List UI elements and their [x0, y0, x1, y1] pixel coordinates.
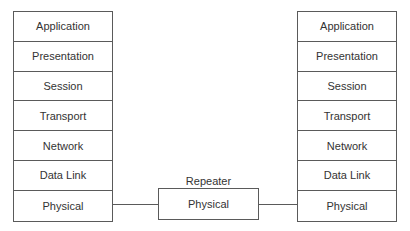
right-osi-stack: Application Presentation Session Transpo… [297, 11, 397, 222]
right-layer-physical: Physical [298, 191, 396, 221]
left-layer-transport: Transport [14, 101, 112, 131]
layer-label: Session [43, 80, 82, 92]
repeater-label: Repeater [158, 175, 259, 187]
right-connection-line [259, 204, 297, 205]
left-layer-network: Network [14, 131, 112, 161]
layer-label: Transport [40, 110, 87, 122]
left-layer-presentation: Presentation [14, 42, 112, 72]
left-layer-session: Session [14, 72, 112, 102]
left-layer-physical: Physical [14, 191, 112, 221]
layer-label: Network [327, 140, 367, 152]
layer-label: Session [327, 80, 366, 92]
left-connection-line [113, 204, 158, 205]
layer-label: Presentation [32, 50, 94, 62]
repeater-layer-label: Physical [188, 198, 229, 210]
layer-label: Network [43, 140, 83, 152]
left-layer-data-link: Data Link [14, 161, 112, 191]
layer-label: Data Link [324, 169, 370, 181]
repeater-physical-box: Physical [158, 188, 259, 220]
right-layer-data-link: Data Link [298, 161, 396, 191]
right-layer-network: Network [298, 131, 396, 161]
layer-label: Data Link [40, 169, 86, 181]
layer-label: Physical [327, 200, 368, 212]
layer-label: Application [36, 20, 90, 32]
layer-label: Physical [43, 200, 84, 212]
right-layer-transport: Transport [298, 101, 396, 131]
right-layer-application: Application [298, 12, 396, 42]
layer-label: Presentation [316, 50, 378, 62]
right-layer-presentation: Presentation [298, 42, 396, 72]
layer-label: Transport [324, 110, 371, 122]
layer-label: Application [320, 20, 374, 32]
left-osi-stack: Application Presentation Session Transpo… [13, 11, 113, 222]
right-layer-session: Session [298, 72, 396, 102]
left-layer-application: Application [14, 12, 112, 42]
